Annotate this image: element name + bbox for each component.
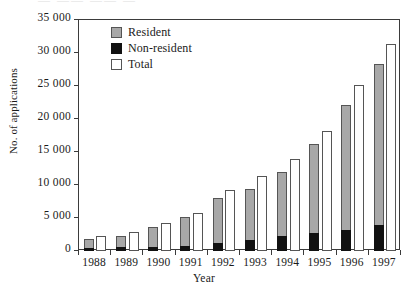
y-tick-label: 35 000 bbox=[38, 11, 71, 23]
y-tick-label: 5 000 bbox=[44, 209, 71, 221]
bar-nonresident-1993 bbox=[245, 240, 255, 251]
y-axis-title: No. of applications bbox=[7, 36, 19, 186]
bar-nonresident-1996 bbox=[341, 230, 351, 251]
x-tick-mark bbox=[175, 250, 176, 255]
x-tick-mark bbox=[110, 250, 111, 255]
bar-total-1993 bbox=[257, 176, 267, 251]
x-axis-title: Year bbox=[0, 272, 408, 284]
legend-item-total: Total bbox=[111, 57, 192, 72]
plot-area: ResidentNon-residentTotal bbox=[78, 19, 400, 250]
bar-nonresident-1991 bbox=[180, 246, 190, 251]
bar-total-1996 bbox=[354, 85, 364, 251]
bar-total-1988 bbox=[96, 236, 106, 251]
bar-total-1992 bbox=[225, 190, 235, 251]
x-tick-mark bbox=[239, 250, 240, 255]
y-tick-label: 25 000 bbox=[38, 77, 71, 89]
x-tick-label-1990: 1990 bbox=[142, 256, 174, 268]
y-tick-label: 30 000 bbox=[38, 44, 71, 56]
x-tick-mark bbox=[303, 250, 304, 255]
x-tick-mark bbox=[400, 250, 401, 255]
legend-label: Resident bbox=[128, 25, 171, 40]
legend-swatch-total bbox=[111, 59, 122, 70]
x-tick-label-1992: 1992 bbox=[207, 256, 239, 268]
legend-label: Total bbox=[128, 57, 153, 72]
x-tick-label-1994: 1994 bbox=[271, 256, 303, 268]
y-tick-label: 20 000 bbox=[38, 110, 71, 122]
x-tick-label-1988: 1988 bbox=[78, 256, 110, 268]
bar-nonresident-1990 bbox=[148, 247, 158, 251]
legend-swatch-resident bbox=[111, 27, 122, 38]
x-tick-label-1993: 1993 bbox=[239, 256, 271, 268]
bar-total-1990 bbox=[161, 223, 171, 251]
y-tick-label: 10 000 bbox=[38, 176, 71, 188]
x-tick-mark bbox=[336, 250, 337, 255]
chart-legend: ResidentNon-residentTotal bbox=[111, 25, 192, 73]
bar-total-1995 bbox=[322, 131, 332, 251]
bar-total-1994 bbox=[290, 159, 300, 251]
legend-label: Non-resident bbox=[128, 41, 192, 56]
legend-item-resident: Resident bbox=[111, 25, 192, 40]
x-tick-label-1989: 1989 bbox=[110, 256, 142, 268]
bar-total-1989 bbox=[129, 232, 139, 251]
bar-nonresident-1988 bbox=[84, 248, 94, 251]
x-tick-mark bbox=[142, 250, 143, 255]
bar-nonresident-1992 bbox=[213, 243, 223, 251]
x-tick-mark bbox=[207, 250, 208, 255]
legend-swatch-nonresident bbox=[111, 43, 122, 54]
bar-nonresident-1989 bbox=[116, 247, 126, 251]
y-tick-label: 0 bbox=[65, 242, 71, 254]
x-tick-mark bbox=[368, 250, 369, 255]
bar-nonresident-1997 bbox=[374, 225, 384, 251]
bar-total-1991 bbox=[193, 213, 203, 251]
x-tick-mark bbox=[271, 250, 272, 255]
legend-item-non-resident: Non-resident bbox=[111, 41, 192, 56]
y-tick-label: 15 000 bbox=[38, 143, 71, 155]
x-tick-label-1996: 1996 bbox=[336, 256, 368, 268]
bar-total-1997 bbox=[386, 44, 396, 251]
x-tick-mark bbox=[78, 250, 79, 255]
x-tick-label-1995: 1995 bbox=[303, 256, 335, 268]
bar-resident-1997 bbox=[374, 64, 384, 251]
bar-nonresident-1995 bbox=[309, 233, 319, 251]
x-tick-label-1991: 1991 bbox=[175, 256, 207, 268]
x-tick-label-1997: 1997 bbox=[368, 256, 400, 268]
bar-chart: No. of applications 05 00010 00015 00020… bbox=[0, 0, 408, 291]
bar-nonresident-1994 bbox=[277, 236, 287, 251]
